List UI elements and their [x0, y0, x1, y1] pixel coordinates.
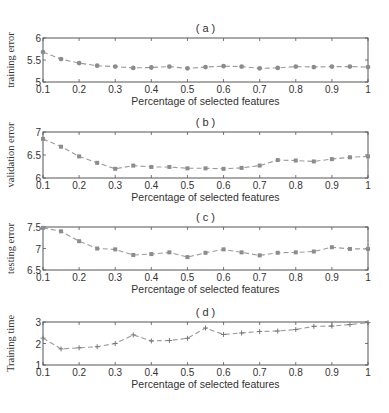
data-point: [131, 332, 136, 337]
chart-canvas: ( a )0.10.20.30.40.50.60.70.80.9155.56Pe…: [0, 0, 389, 413]
y-axis-label: training error: [5, 32, 16, 88]
data-point: [59, 57, 64, 62]
x-tick-label: 0.9: [325, 272, 339, 283]
data-point: [312, 159, 316, 163]
x-tick-label: 0.7: [253, 180, 267, 191]
data-point: [275, 66, 280, 71]
y-tick-label: 3: [35, 317, 41, 328]
data-point: [312, 250, 316, 254]
data-point: [131, 66, 136, 71]
y-tick-label: 2: [35, 339, 41, 350]
data-point: [77, 345, 82, 350]
data-point: [113, 64, 118, 69]
data-point: [348, 155, 352, 159]
data-point: [366, 154, 370, 158]
y-tick-label: 6.5: [27, 150, 41, 161]
x-tick-label: 0.4: [144, 272, 158, 283]
data-point: [59, 229, 63, 233]
data-point: [203, 326, 208, 331]
x-tick-label: 0.6: [217, 180, 231, 191]
x-tick-label: 0.2: [72, 84, 86, 95]
data-point: [95, 247, 99, 251]
data-point: [366, 320, 371, 325]
x-tick-label: 0.9: [325, 84, 339, 95]
data-point: [131, 253, 135, 257]
x-tick-label: 0.3: [108, 84, 122, 95]
data-point: [330, 245, 334, 249]
data-point: [167, 250, 171, 254]
data-point: [222, 167, 226, 171]
y-tick-label: 6.5: [27, 265, 41, 276]
subplot-title: ( c ): [196, 211, 215, 223]
data-point: [239, 64, 244, 69]
data-point: [311, 324, 316, 329]
y-axis-label: validation error: [5, 122, 16, 188]
subplot-a: ( a )0.10.20.30.40.50.60.70.80.9155.56Pe…: [5, 22, 371, 107]
x-tick-label: 0.8: [289, 180, 303, 191]
data-point: [149, 165, 153, 169]
y-tick-label: 7: [35, 127, 41, 138]
data-point: [275, 329, 280, 334]
x-tick-label: 0.6: [217, 272, 231, 283]
y-axis-label: testing error: [5, 222, 16, 274]
x-axis-label: Percentage of selected features: [131, 95, 279, 107]
subplot-title: ( a ): [196, 22, 216, 34]
x-tick-label: 0.3: [108, 367, 122, 378]
data-point: [366, 247, 370, 251]
subplot-c: ( c )0.10.20.30.40.50.60.70.80.916.577.5…: [5, 211, 371, 295]
y-tick-label: 5: [35, 77, 41, 88]
x-axis-label: Percentage of selected features: [131, 283, 279, 295]
data-point: [185, 255, 189, 259]
data-point: [294, 159, 298, 163]
x-tick-label: 0.9: [325, 180, 339, 191]
data-point: [113, 247, 117, 251]
y-tick-label: 1: [35, 360, 41, 371]
data-point: [239, 330, 244, 335]
x-tick-label: 1: [365, 272, 371, 283]
data-point: [276, 158, 280, 162]
subplot-title: ( b ): [196, 116, 216, 128]
data-point: [258, 253, 262, 257]
data-point: [348, 247, 352, 251]
data-point: [185, 166, 189, 170]
axes-box: [43, 38, 368, 82]
y-axis-label: Training time: [5, 315, 16, 372]
x-tick-label: 0.7: [253, 84, 267, 95]
data-point: [41, 50, 46, 55]
y-tick-label: 5.5: [27, 55, 41, 66]
x-tick-label: 0.8: [289, 84, 303, 95]
x-tick-label: 0.4: [144, 84, 158, 95]
subplot-b: ( b )0.10.20.30.40.50.60.70.80.9166.57Pe…: [5, 116, 371, 203]
axes-box: [43, 132, 368, 178]
data-point: [329, 64, 334, 69]
data-point: [257, 329, 262, 334]
x-tick-label: 0.8: [289, 272, 303, 283]
x-tick-label: 0.3: [108, 272, 122, 283]
data-point: [77, 154, 81, 158]
data-point: [240, 166, 244, 170]
data-point: [204, 251, 208, 255]
data-point: [95, 63, 100, 68]
data-point: [221, 332, 226, 337]
x-tick-label: 0.5: [180, 84, 194, 95]
data-point: [293, 327, 298, 332]
data-point: [167, 338, 172, 343]
data-point: [185, 66, 190, 71]
axes-box: [43, 227, 368, 270]
y-tick-label: 7.5: [27, 222, 41, 233]
data-point: [41, 226, 45, 230]
x-tick-label: 1: [365, 84, 371, 95]
y-tick-label: 7: [35, 244, 41, 255]
data-point: [294, 250, 298, 254]
x-tick-label: 0.4: [144, 367, 158, 378]
data-point: [185, 336, 190, 341]
x-tick-label: 0.5: [180, 272, 194, 283]
data-point: [257, 66, 262, 71]
data-point: [113, 167, 117, 171]
data-point: [330, 157, 334, 161]
data-point: [293, 64, 298, 69]
data-point: [348, 64, 353, 69]
subplot-title: ( d ): [196, 306, 216, 318]
x-tick-label: 0.6: [217, 84, 231, 95]
data-point: [59, 346, 64, 351]
